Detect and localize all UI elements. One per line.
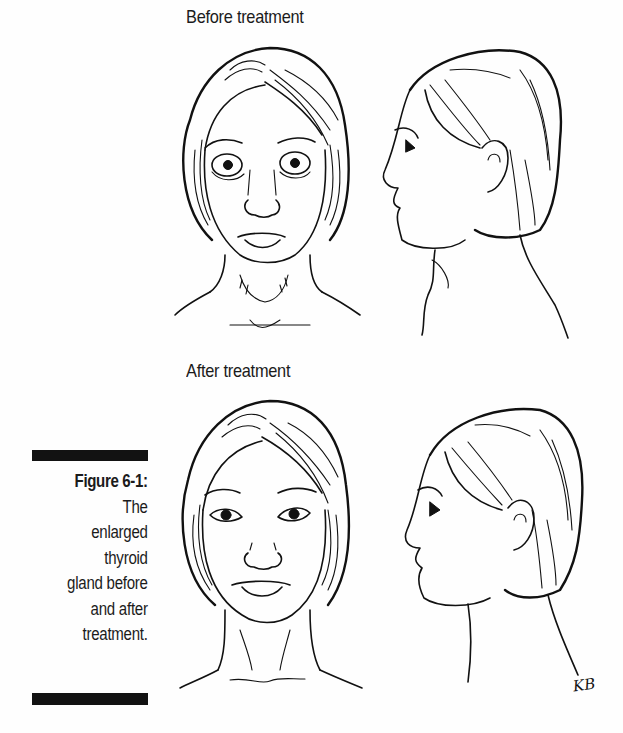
after-front-face-illustration (170, 385, 370, 695)
caption-top-rule (32, 450, 148, 461)
before-front-face-illustration (170, 30, 370, 340)
figure-caption: Figure 6-1: The enlarged thyroid gland b… (54, 469, 148, 648)
caption-line: and after (67, 597, 148, 623)
caption-line: enlarged (67, 520, 148, 546)
after-profile-illustration (390, 390, 600, 690)
caption-bottom-rule (32, 693, 148, 705)
after-treatment-label: After treatment (186, 360, 290, 382)
before-profile-illustration (370, 30, 590, 340)
caption-line: gland before (67, 571, 148, 597)
caption-line: thyroid (67, 546, 148, 572)
before-treatment-label: Before treatment (186, 6, 304, 28)
artist-signature: KB (572, 675, 597, 696)
figure-number: Figure 6-1: (67, 469, 148, 495)
caption-line: The (67, 495, 148, 521)
caption-line: treatment. (67, 622, 148, 648)
